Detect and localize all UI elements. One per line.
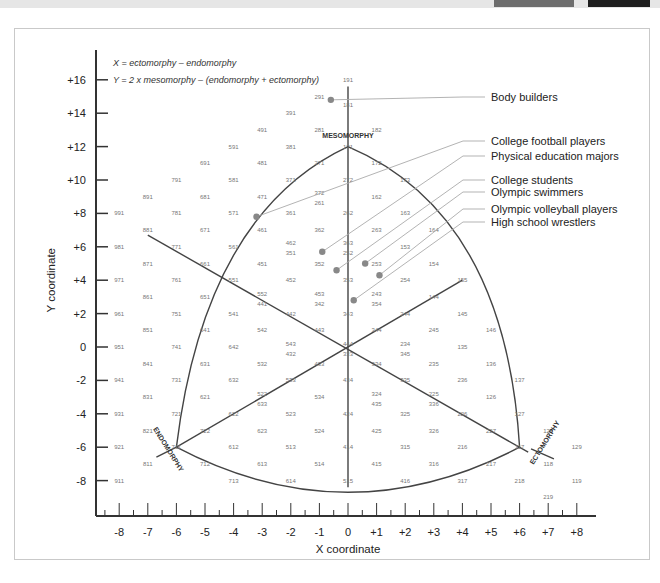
somatotype-label: 621 — [200, 394, 211, 400]
somatotype-label: 371 — [286, 177, 297, 183]
somatotype-label: 534 — [314, 394, 325, 400]
y-tick-label: +10 — [67, 174, 86, 186]
somatotype-label: 633 — [257, 401, 268, 407]
somatotype-label: 219 — [543, 494, 554, 500]
somatotype-label: 751 — [171, 311, 182, 317]
y-tick-label: +8 — [73, 207, 86, 219]
group-dot — [362, 260, 368, 266]
somatotype-label: 218 — [515, 478, 526, 484]
somatotype-label: 622 — [229, 411, 240, 417]
somatotype-label: 381 — [286, 144, 297, 150]
y-tick-label: -6 — [76, 441, 86, 453]
formula-x: X = ectomorphy – endomorphy — [112, 58, 237, 68]
x-tick-label: -7 — [143, 526, 153, 538]
group-dot — [351, 297, 357, 303]
somatotype-label: 861 — [143, 294, 154, 300]
somatotype-label: 172 — [372, 160, 383, 166]
somatotype-label: 623 — [257, 428, 268, 434]
somatotype-label: 129 — [572, 444, 583, 450]
somatochart: +16+14+12+10+8+6+4+20-2-4-6-8-8-7-6-5-4-… — [0, 0, 660, 583]
somatotype-label: 154 — [429, 261, 440, 267]
somatotype-label: 632 — [229, 377, 240, 383]
somatotype-label: 541 — [229, 311, 240, 317]
somatotype-label: 462 — [286, 240, 297, 246]
somatotype-label: 881 — [143, 227, 154, 233]
somatotype-label: 163 — [400, 210, 411, 216]
somatotype-label: 351 — [286, 250, 297, 256]
leader-line — [322, 156, 485, 252]
somatotype-label: 532 — [257, 361, 268, 367]
somatotype-label: 831 — [143, 394, 154, 400]
somatotype-label: 515 — [343, 478, 354, 484]
somatotype-label: 414 — [343, 444, 354, 450]
somatotype-label: 191 — [343, 77, 354, 83]
somatotype-label: 119 — [572, 478, 582, 484]
legend-label: Olympic volleyball players — [491, 203, 618, 215]
somatotype-label: 523 — [286, 411, 297, 417]
somatotype-label: 291 — [314, 94, 325, 100]
somatotype-label: 137 — [515, 377, 526, 383]
somatotype-label: 263 — [372, 227, 383, 233]
somatotype-label: 225 — [429, 391, 440, 397]
somatotype-label: 343 — [343, 311, 354, 317]
somatotype-label: 971 — [114, 277, 125, 283]
somatotype-label: 216 — [457, 444, 468, 450]
somatotype-label: 513 — [286, 444, 297, 450]
somatotype-label: 821 — [143, 428, 154, 434]
somatotype-label: 671 — [200, 227, 211, 233]
somatotype-label: 316 — [429, 461, 440, 467]
somatotype-label: 791 — [171, 177, 182, 183]
somatotype-label: 173 — [400, 177, 411, 183]
somatotype-label: 342 — [314, 301, 325, 307]
somatotype-label: 533 — [286, 377, 297, 383]
somatotype-label: 581 — [229, 177, 240, 183]
somatotype-label: 552 — [257, 291, 268, 297]
somatotype-label: 651 — [200, 294, 211, 300]
somatotype-label: 631 — [200, 361, 211, 367]
x-tick-label: +2 — [399, 526, 412, 538]
formula-y: Y = 2 x mesomorphy – (endomorphy + ectom… — [113, 75, 319, 85]
somatotype-label: 135 — [457, 344, 468, 350]
x-tick-label: -4 — [229, 526, 239, 538]
x-axis-title: X coordinate — [316, 543, 381, 555]
somatotype-label: 911 — [114, 478, 124, 484]
somatotype-label: 811 — [143, 461, 153, 467]
somatotype-label: 841 — [143, 361, 154, 367]
somatotype-label: 363 — [343, 240, 354, 246]
somatotype-label: 227 — [486, 428, 497, 434]
somatotype-label: 345 — [400, 351, 411, 357]
somatotype-label: 561 — [229, 244, 240, 250]
somatotype-label: 491 — [257, 127, 268, 133]
somatotype-label: 254 — [400, 277, 411, 283]
x-tick-label: -1 — [315, 526, 325, 538]
x-tick-label: -6 — [172, 526, 182, 538]
somatotype-label: 543 — [286, 341, 297, 347]
somatotype-label: 315 — [400, 444, 411, 450]
somatotype-label: 326 — [429, 428, 440, 434]
leader-line — [365, 192, 485, 264]
group-dot — [376, 272, 382, 278]
x-tick-label: +6 — [513, 526, 526, 538]
somatotype-label: 442 — [286, 311, 297, 317]
somatotype-label: 181 — [343, 102, 354, 108]
somatotype-label: 245 — [429, 327, 440, 333]
somatotype-label: 452 — [286, 277, 297, 283]
somatotype-label: 226 — [457, 411, 468, 417]
somatotype-label: 391 — [286, 110, 297, 116]
somatotype-label: 424 — [343, 411, 354, 417]
legend-label: High school wrestlers — [491, 216, 596, 228]
x-tick-label: -5 — [200, 526, 210, 538]
legend-label: Body builders — [491, 91, 558, 103]
somatotype-label: 261 — [314, 200, 325, 206]
group-dot — [333, 267, 339, 273]
x-tick-label: -3 — [257, 526, 267, 538]
somatotype-label: 127 — [515, 411, 526, 417]
x-tick-label: +1 — [370, 526, 383, 538]
somatotype-label: 691 — [200, 160, 211, 166]
somatotype-label: 951 — [114, 344, 125, 350]
somatotype-label: 542 — [257, 327, 268, 333]
legend-label: Olympic swimmers — [491, 186, 584, 198]
somatotype-label: 981 — [114, 244, 125, 250]
somatotype-label: 153 — [400, 244, 411, 250]
group-dot — [253, 214, 259, 220]
